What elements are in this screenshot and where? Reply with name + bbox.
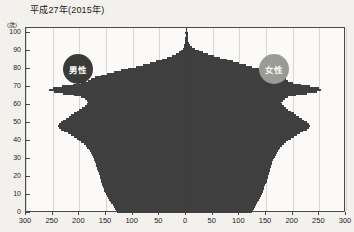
legend-label-female: 女性 <box>265 63 284 75</box>
pyramid-bar <box>66 118 186 120</box>
pyramid-bar <box>186 173 269 175</box>
x-axis-tick-label: 300 <box>13 216 37 225</box>
pyramid-bar <box>186 71 269 73</box>
pyramid-bar <box>89 148 186 150</box>
pyramid-bar <box>186 100 283 102</box>
pyramid-bar <box>186 145 282 147</box>
pyramid-bar <box>186 69 264 71</box>
legend-badge-female: 女性 <box>259 54 289 84</box>
pyramid-bar <box>74 136 186 138</box>
pyramid-bar <box>63 120 186 122</box>
pyramid-bar <box>71 134 186 136</box>
pyramid-bar <box>100 177 186 179</box>
pyramid-bar <box>99 172 186 174</box>
y-axis-tick-label: 10 <box>3 190 21 197</box>
pyramid-bar <box>186 182 266 184</box>
pyramid-bar <box>69 116 186 118</box>
gridline-vertical <box>346 28 347 211</box>
pyramid-bar <box>186 96 288 98</box>
pyramid-bar <box>186 114 296 116</box>
pyramid-bar <box>110 200 186 202</box>
pyramid-bar <box>101 179 186 181</box>
pyramid-bar <box>86 145 186 147</box>
x-axis-tick-mark <box>158 212 159 215</box>
gridline-vertical <box>26 28 27 211</box>
pyramid-bar <box>186 107 286 109</box>
pyramid-bar <box>186 195 261 197</box>
pyramid-bar <box>81 82 186 84</box>
y-axis-tick-label: 60 <box>3 100 21 107</box>
pyramid-bar <box>186 161 272 163</box>
pyramid-bar <box>186 55 214 57</box>
pyramid-bar <box>186 93 307 95</box>
y-axis-tick-mark <box>26 50 30 51</box>
pyramid-bar <box>186 138 291 140</box>
pyramid-bar <box>186 190 263 192</box>
y-axis-tick-mark <box>26 86 30 87</box>
y-axis-tick-mark <box>26 68 30 69</box>
pyramid-bar <box>172 55 186 57</box>
y-axis-tick-label: 70 <box>3 82 21 89</box>
pyramid-bar <box>114 71 186 73</box>
x-axis-tick-mark <box>105 212 106 215</box>
pyramid-bar <box>93 156 186 158</box>
x-axis-tick-mark <box>212 212 213 215</box>
pyramid-bar <box>97 166 186 168</box>
pyramid-bar <box>186 66 252 68</box>
y-axis-tick-mark <box>26 122 30 123</box>
x-axis-tick-label: 100 <box>120 216 144 225</box>
pyramid-bar <box>96 163 186 165</box>
pyramid-bar <box>186 118 302 120</box>
pyramid-bar <box>77 111 186 113</box>
x-axis-tick-label: 150 <box>93 216 117 225</box>
x-axis-tick-label: 100 <box>226 216 250 225</box>
pyramid-bar <box>95 161 186 163</box>
pyramid-bar <box>186 211 252 213</box>
x-axis-tick-label: 300 <box>333 216 354 225</box>
pyramid-bar <box>186 84 301 86</box>
pyramid-bar <box>186 125 310 127</box>
pyramid-bar <box>186 175 268 177</box>
pyramid-bar <box>85 98 186 100</box>
pyramid-bar <box>186 109 288 111</box>
pyramid-bar <box>121 69 186 71</box>
pyramid-bar <box>186 165 271 167</box>
pyramid-bar <box>167 57 186 59</box>
pyramid-bar <box>186 143 284 145</box>
pyramid-bar <box>79 109 186 111</box>
pyramid-bar <box>186 64 246 66</box>
pyramid-bar <box>97 168 186 170</box>
pyramid-bar <box>186 50 199 52</box>
pyramid-bar <box>186 188 264 190</box>
pyramid-bar <box>68 132 186 134</box>
pyramid-bar <box>104 190 186 192</box>
center-axis <box>186 28 187 211</box>
y-axis-tick-label: 80 <box>3 64 21 71</box>
pyramid-bar <box>186 193 262 195</box>
pyramid-bar <box>186 139 288 141</box>
pyramid-bar <box>186 204 256 206</box>
pyramid-bar <box>186 68 259 70</box>
pyramid-bar <box>95 76 186 78</box>
pyramid-bar <box>186 89 321 91</box>
pyramid-bar <box>49 89 186 91</box>
pyramid-bar <box>186 98 285 100</box>
pyramid-bar <box>186 152 277 154</box>
pyramid-bar <box>96 165 186 167</box>
pyramid-bar <box>186 206 255 208</box>
pyramid-bar <box>186 209 253 211</box>
gridline-vertical <box>319 28 320 211</box>
pyramid-bar <box>136 66 186 68</box>
pyramid-bar <box>54 91 186 93</box>
x-axis-tick-label: 150 <box>253 216 277 225</box>
pyramid-bar <box>81 96 186 98</box>
pyramid-bar <box>79 139 186 141</box>
pyramid-bar <box>59 127 186 129</box>
x-axis-tick-mark <box>78 212 79 215</box>
pyramid-bar <box>113 204 186 206</box>
x-axis-tick-mark <box>132 212 133 215</box>
x-axis-tick-mark <box>292 212 293 215</box>
pyramid-bar <box>117 211 186 213</box>
pyramid-bar <box>111 202 186 204</box>
pyramid-bar <box>186 132 300 134</box>
